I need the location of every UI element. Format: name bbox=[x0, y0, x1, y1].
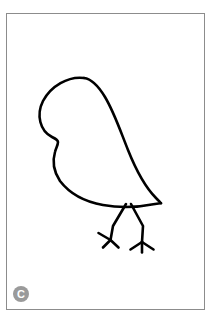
page-canvas: bird-line-drawing C bbox=[0, 0, 219, 332]
drawing-frame bbox=[6, 13, 205, 310]
panel-label-text: C bbox=[17, 289, 25, 300]
panel-label-badge: C bbox=[13, 286, 29, 302]
